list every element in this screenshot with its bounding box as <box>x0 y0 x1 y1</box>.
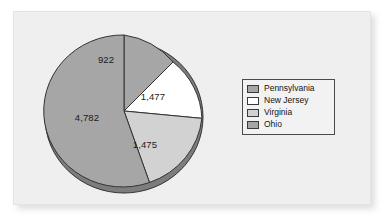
legend-item-ohio: Ohio <box>247 119 330 130</box>
chart-legend: Pennsylvania New Jersey Virginia Ohio <box>242 79 335 135</box>
legend-item-pennsylvania: Pennsylvania <box>247 83 330 94</box>
pie-chart: 922 1,477 1,475 4,782 <box>40 25 212 197</box>
legend-swatch-pennsylvania <box>247 85 259 93</box>
legend-label-pennsylvania: Pennsylvania <box>264 83 315 94</box>
slice-label-pennsylvania: 922 <box>98 54 114 65</box>
legend-swatch-new-jersey <box>247 97 259 105</box>
legend-label-ohio: Ohio <box>264 119 282 130</box>
legend-label-virginia: Virginia <box>264 107 292 118</box>
chart-frame: 922 1,477 1,475 4,782 Pennsylvania New J… <box>13 11 371 205</box>
legend-label-new-jersey: New Jersey <box>264 95 308 106</box>
legend-item-virginia: Virginia <box>247 107 330 118</box>
pie-svg <box>40 25 212 197</box>
chart-screenshot: 922 1,477 1,475 4,782 Pennsylvania New J… <box>0 0 388 221</box>
legend-item-new-jersey: New Jersey <box>247 95 330 106</box>
slice-label-virginia: 1,475 <box>133 139 157 150</box>
pie-slices <box>44 35 202 187</box>
plot-area: 922 1,477 1,475 4,782 Pennsylvania New J… <box>14 12 370 204</box>
legend-swatch-ohio <box>247 121 259 129</box>
slice-label-new-jersey: 1,477 <box>141 91 165 102</box>
legend-swatch-virginia <box>247 109 259 117</box>
slice-label-ohio: 4,782 <box>75 112 99 123</box>
